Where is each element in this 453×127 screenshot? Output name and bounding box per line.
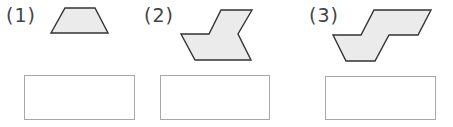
z-octagon-shape [333, 10, 431, 61]
trapezoid-shape [51, 8, 108, 33]
answer-box-1[interactable] [24, 75, 135, 120]
answer-box-2[interactable] [160, 75, 270, 120]
hexagon-arrow-shape [181, 10, 252, 60]
answer-box-3[interactable] [325, 76, 436, 120]
